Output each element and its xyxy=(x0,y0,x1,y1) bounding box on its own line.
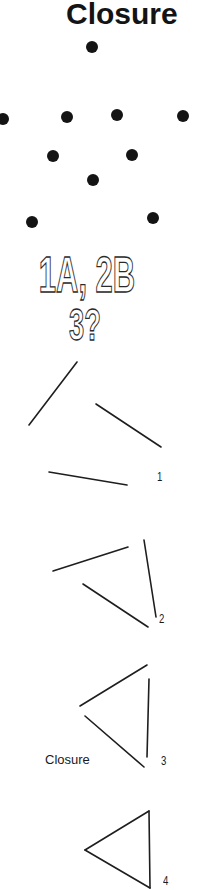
line-segment xyxy=(85,811,149,850)
dot xyxy=(111,109,123,121)
line-segment xyxy=(49,472,127,485)
line-segment xyxy=(149,811,150,888)
figure-label-4: 4 xyxy=(163,874,168,888)
line-segment xyxy=(80,665,147,706)
line-segment xyxy=(83,584,148,627)
dot xyxy=(47,150,59,162)
line-segment xyxy=(85,716,144,767)
dot xyxy=(61,111,73,123)
dot xyxy=(0,113,9,125)
puzzle-line-2: 3? xyxy=(69,300,101,349)
figure-1-lines xyxy=(29,362,161,485)
line-segment xyxy=(96,404,161,447)
figure-label-1: 1 xyxy=(157,470,162,484)
closure-diagram: 1A, 2B 3? xyxy=(0,0,200,890)
figure-2-lines xyxy=(53,540,156,627)
figure-3-lines xyxy=(80,665,149,767)
dot xyxy=(26,216,38,228)
line-segment xyxy=(29,362,77,425)
figure-4-triangle xyxy=(85,811,150,888)
dot xyxy=(86,41,98,53)
dot xyxy=(87,174,99,186)
dot-pattern xyxy=(0,41,189,228)
letter-number-puzzle: 1A, 2B 3? xyxy=(39,246,135,349)
line-segment xyxy=(53,547,128,571)
dot xyxy=(177,110,189,122)
dot xyxy=(147,212,159,224)
line-segment xyxy=(147,679,149,757)
closure-caption: Closure xyxy=(45,752,90,767)
dot xyxy=(126,149,138,161)
line-segment xyxy=(85,850,150,888)
figure-label-2: 2 xyxy=(159,612,164,626)
puzzle-line-1: 1A, 2B xyxy=(39,246,135,302)
figure-label-3: 3 xyxy=(161,754,166,768)
line-segment xyxy=(144,540,156,617)
